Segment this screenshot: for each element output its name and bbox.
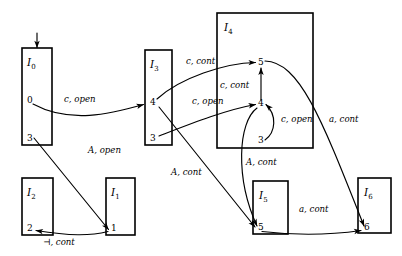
edge-label-a-cont-2: a, cont [299,204,329,214]
box-I4-title-sub: 4 [228,28,233,36]
node-label-I6-6: 6 [364,222,370,232]
box-I5[interactable]: I5 5 [253,181,288,234]
node-label-I0-0: 0 [27,95,33,105]
edge-label-A-cont-1: A, cont [170,167,202,177]
node-label-I4-5: 5 [258,57,264,67]
node-label-I5-5: 5 [258,222,264,232]
edge-label-c-cont-2: c, cont [220,80,250,90]
edge-label-A-open: A, open [87,145,121,155]
edge-label-A-cont-2: A, cont [245,157,277,167]
box-I1[interactable]: I1 1 [106,178,135,235]
node-label-I3-3: 3 [150,133,156,143]
box-I0-title-sub: 0 [31,63,35,71]
box-I1-title-sub: 1 [115,193,119,201]
diagram-canvas: I0 0 3 I1 1 I2 2 I3 4 3 [0,0,402,256]
node-label-I3-4: 4 [150,97,156,107]
box-I6-title-sub: 6 [368,193,373,201]
edge-label-c-open-2: c, open [192,96,224,106]
edge-label-c-open-3: c, open [281,114,313,124]
box-I0[interactable]: I0 0 3 [22,48,52,145]
edge-label-a-cont-1: a, cont [329,114,359,124]
node-label-I4-3: 3 [258,135,264,145]
edge-label-turnstile-cont: ⊣, cont [43,237,75,247]
box-I2[interactable]: I2 2 [22,178,53,235]
box-I5-title-sub: 5 [263,196,267,204]
box-I3-title-sub: 3 [154,65,158,73]
node-label-I0-3: 3 [27,133,33,143]
node-label-I2-2: 2 [27,223,33,233]
node-label-I1-1: 1 [111,223,117,233]
edge-label-c-open-1: c, open [64,94,96,104]
automaton-diagram: I0 0 3 I1 1 I2 2 I3 4 3 [0,0,402,256]
box-I2-title-sub: 2 [31,193,35,201]
edge-label-c-cont-1: c, cont [186,56,216,66]
